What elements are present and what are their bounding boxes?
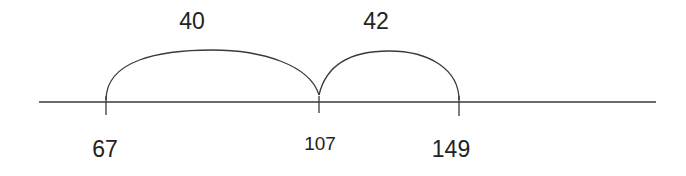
jump-label-1: 40 <box>179 8 205 34</box>
point-label-67: 67 <box>92 136 118 162</box>
point-label-107: 107 <box>304 133 336 154</box>
jump-label-2: 42 <box>363 8 389 34</box>
jump-arc-1 <box>106 50 319 100</box>
number-line-diagram: 40 42 67 107 149 <box>0 0 686 176</box>
point-label-149: 149 <box>432 136 470 162</box>
jump-arc-2 <box>319 51 459 100</box>
